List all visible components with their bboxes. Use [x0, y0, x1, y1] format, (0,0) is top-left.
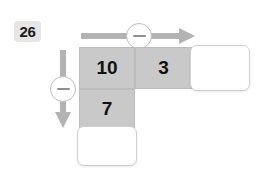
minus-icon [57, 88, 70, 91]
horizontal-minus-operator-icon [126, 23, 152, 49]
grid-cell-minuend: 10 [79, 47, 135, 89]
answer-box-column-result[interactable] [77, 126, 137, 166]
minus-icon [133, 35, 146, 38]
worksheet-exercise: 26 10 3 7 [0, 0, 265, 171]
arrow-head [179, 28, 195, 44]
answer-box-row-result[interactable] [190, 45, 250, 91]
question-number-badge: 26 [14, 21, 41, 42]
grid-cell-column-subtrahend: 7 [79, 89, 135, 128]
arrow-head [55, 112, 71, 128]
vertical-minus-operator-icon [50, 76, 76, 102]
grid-cell-subtrahend: 3 [135, 47, 192, 89]
